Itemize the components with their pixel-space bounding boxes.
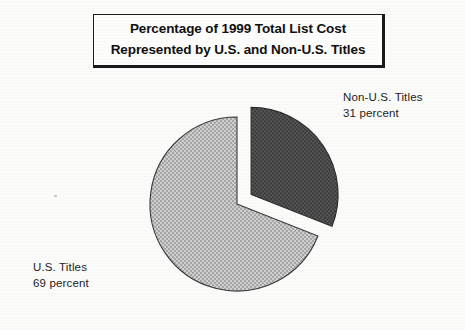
chart-title-line-1: Percentage of 1999 Total List Cost — [130, 19, 346, 40]
chart-title-box: Percentage of 1999 Total List Cost Repre… — [93, 14, 385, 68]
pie-label-nonus-name: Non-U.S. Titles — [343, 89, 423, 105]
pie-label-us-titles: U.S. Titles 69 percent — [33, 259, 89, 291]
pie-label-nonus-value: 31 percent — [343, 105, 423, 121]
chart-title-line-2: Represented by U.S. and Non-U.S. Titles — [111, 40, 366, 61]
pie-label-us-name: U.S. Titles — [33, 259, 89, 275]
pie-label-us-value: 69 percent — [33, 275, 89, 291]
scan-artifact — [54, 195, 57, 197]
pie-label-nonus-titles: Non-U.S. Titles 31 percent — [343, 89, 423, 121]
pie-slice-nonus-titles — [251, 107, 338, 226]
chart-page: Percentage of 1999 Total List Cost Repre… — [0, 0, 465, 330]
